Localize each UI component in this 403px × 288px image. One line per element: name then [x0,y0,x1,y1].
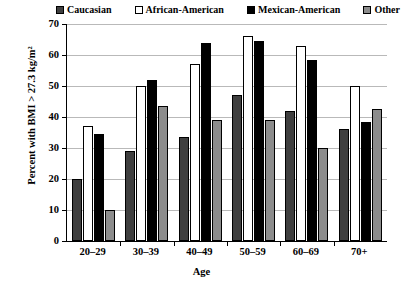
y-axis-tick-label: 30 [31,143,59,153]
bar-caucasian [125,151,135,241]
legend-label-mexican-american: Mexican-American [258,5,340,15]
x-axis-tick-label: 20–29 [66,246,119,257]
bar-caucasian [179,137,189,241]
legend-label-caucasian: Caucasian [67,5,111,15]
bar-mexican-american [147,80,157,241]
y-axis-tick-label: 70 [31,19,59,29]
x-axis-tick-label: 70+ [333,246,386,257]
bar-other [212,120,222,241]
x-axis-tick-label: 30–39 [119,246,172,257]
bar-group [227,24,280,241]
y-axis-tick-label: 40 [31,112,59,122]
legend-swatch-other [363,6,371,14]
legend-swatch-african-american [135,6,143,14]
bar-group [174,24,227,241]
bar-mexican-american [307,60,317,241]
legend-item-caucasian: Caucasian [56,5,111,15]
bar-african-american [350,86,360,241]
bar-other [265,120,275,241]
bar-african-american [83,126,93,241]
bar-other [105,210,115,241]
x-axis-tick-label: 60–69 [279,246,332,257]
chart-legend: Caucasian African-American Mexican-Ameri… [56,2,400,17]
bar-mexican-american [201,43,211,241]
plot-area: 706050403020100 [66,24,387,242]
x-axis-title: Age [0,266,403,277]
x-axis-tick-label: 40–49 [173,246,226,257]
bar-caucasian [232,95,242,241]
bar-group [334,24,387,241]
bar-group [120,24,173,241]
bar-african-american [136,86,146,241]
legend-swatch-mexican-american [247,6,255,14]
bar-caucasian [339,129,349,241]
chart-container: Caucasian African-American Mexican-Ameri… [0,0,403,288]
bar-caucasian [285,111,295,241]
bar-other [372,109,382,241]
y-axis-tick-label: 60 [31,50,59,60]
bar-african-american [190,64,200,241]
bar-african-american [296,46,306,241]
bar-group [280,24,333,241]
bar-mexican-american [94,134,104,241]
bar-group [67,24,120,241]
y-axis-tick [62,241,67,242]
x-axis-tick-label: 50–59 [226,246,279,257]
y-axis-tick-label: 50 [31,81,59,91]
legend-label-other: Other [374,5,400,15]
legend-label-african-american: African-American [146,5,224,15]
y-axis-tick-label: 20 [31,174,59,184]
legend-swatch-caucasian [56,6,64,14]
y-axis-tick-label: 0 [31,236,59,246]
legend-item-other: Other [363,5,400,15]
bar-other [318,148,328,241]
bar-mexican-american [361,122,371,241]
bar-caucasian [72,179,82,241]
bar-mexican-american [254,41,264,241]
y-axis-tick-label: 10 [31,205,59,215]
bar-african-american [243,36,253,241]
legend-item-african-american: African-American [135,5,224,15]
bar-other [158,106,168,241]
legend-item-mexican-american: Mexican-American [247,5,340,15]
